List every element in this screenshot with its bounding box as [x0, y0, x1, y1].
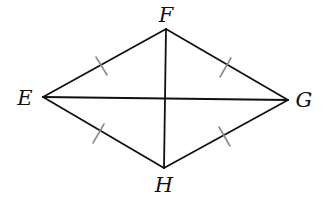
diagonal-fh	[164, 29, 166, 168]
vertex-label-f: F	[159, 5, 174, 26]
rhombus-diagram: E F G H	[0, 0, 326, 203]
vertex-label-g: G	[296, 90, 313, 111]
vertex-label-e: E	[17, 88, 32, 109]
side-gh	[164, 100, 288, 168]
vertex-label-h: H	[155, 175, 173, 196]
side-ef	[43, 29, 166, 97]
side-he	[43, 97, 164, 168]
